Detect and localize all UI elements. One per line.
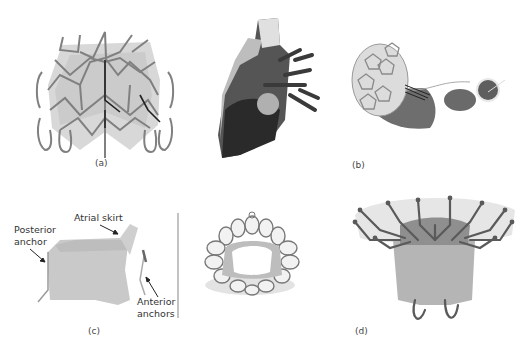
panel-c-top-view	[205, 212, 299, 295]
annotation-anterior-anchors-line1: Anterior	[137, 296, 175, 308]
panel-a-heart	[218, 18, 318, 158]
annotation-anterior-anchors-line2: anchors	[137, 308, 175, 320]
annotation-posterior-anchor-line2: anchor	[14, 236, 56, 248]
annotation-atrial-skirt: Atrial skirt	[74, 212, 123, 224]
panel-label-c: (c)	[88, 326, 100, 336]
annotation-anterior-anchors: Anterior anchors	[137, 296, 175, 320]
panel-b-tethered-valve	[352, 43, 505, 129]
annotation-posterior-anchor-line1: Posterior	[14, 224, 56, 236]
panel-label-a: (a)	[95, 158, 108, 168]
panel-a-valve-frame	[37, 32, 173, 158]
figure-canvas	[0, 0, 529, 356]
panel-label-b: (b)	[352, 160, 365, 170]
annotation-posterior-anchor: Posterior anchor	[14, 224, 56, 248]
panel-d-flared-valve	[353, 196, 515, 319]
panel-label-d: (d)	[355, 326, 368, 336]
